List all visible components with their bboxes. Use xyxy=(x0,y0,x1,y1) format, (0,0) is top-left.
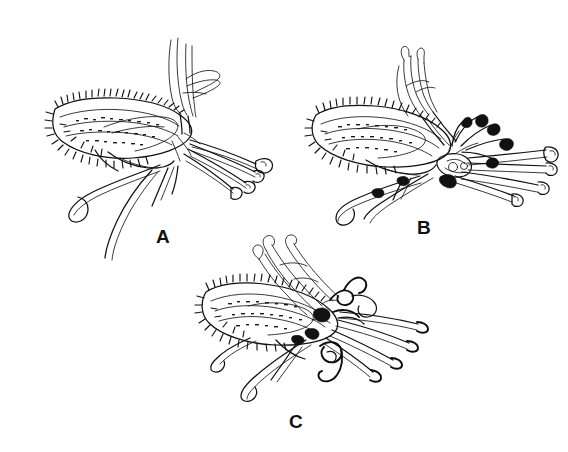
panel-label-c: C xyxy=(289,411,303,432)
figure-plate: A xyxy=(0,0,568,452)
panel-label-b: B xyxy=(417,217,431,238)
figure-background xyxy=(0,0,568,452)
botanical-illustration-svg: A xyxy=(0,0,568,452)
panel-label-a: A xyxy=(156,226,170,247)
